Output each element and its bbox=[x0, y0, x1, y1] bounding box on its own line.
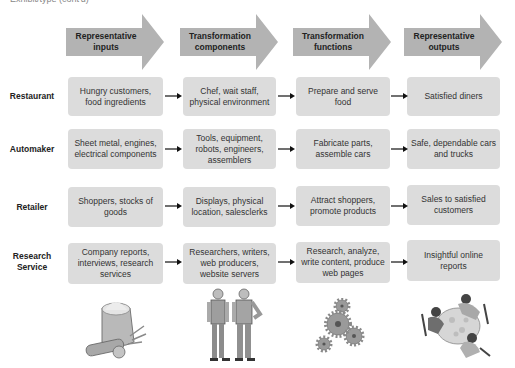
cell-automaker-functions: Fabricate parts,assemble cars bbox=[296, 129, 390, 169]
column-header-label: Transformation bbox=[189, 31, 251, 41]
flow-arrow-icon bbox=[165, 145, 183, 153]
flow-arrow-icon bbox=[165, 258, 183, 266]
column-header-outputs: Representativeoutputs bbox=[404, 14, 504, 70]
figure-caption: Exhibit/type (cont'd) bbox=[10, 0, 89, 4]
cell-research-outputs: Insightful onlinereports bbox=[407, 240, 500, 281]
cell-retailer-outputs: Sales to satisfiedcustomers bbox=[407, 185, 500, 225]
row-label-automaker: Automaker bbox=[0, 144, 64, 155]
diners-at-table-illustration bbox=[418, 290, 500, 364]
flow-arrow-icon bbox=[391, 145, 409, 153]
column-header-functions: Transformationfunctions bbox=[293, 14, 393, 70]
flow-arrow-icon bbox=[278, 145, 296, 153]
column-header-label: Representative bbox=[414, 31, 475, 41]
cell-research-components: Researchers, writers,web producers,websi… bbox=[183, 243, 276, 284]
cell-automaker-outputs: Safe, dependable carsand trucks bbox=[407, 129, 500, 169]
cell-retailer-inputs: Shoppers, stocks ofgoods bbox=[68, 187, 163, 227]
column-header-components: Transformationcomponents bbox=[180, 14, 280, 70]
cell-restaurant-components: Chef, wait staff,physical environment bbox=[183, 77, 276, 116]
flow-arrow-icon bbox=[165, 202, 183, 210]
flow-arrow-icon bbox=[278, 92, 296, 100]
flow-arrow-icon bbox=[278, 202, 296, 210]
flow-arrow-icon bbox=[391, 92, 409, 100]
column-header-inputs: Representativeinputs bbox=[66, 14, 166, 70]
cell-restaurant-functions: Prepare and servefood bbox=[296, 77, 390, 116]
column-header-label: functions bbox=[314, 42, 352, 52]
sack-of-ingredients-illustration bbox=[80, 296, 150, 368]
column-header-label: outputs bbox=[428, 42, 459, 52]
row-label-research-service: ResearchService bbox=[0, 251, 64, 273]
gears-illustration bbox=[312, 298, 372, 360]
cell-retailer-functions: Attract shoppers,promote products bbox=[296, 186, 390, 226]
column-header-label: Representative bbox=[76, 31, 137, 41]
column-header-label: components bbox=[195, 42, 246, 52]
cell-restaurant-outputs: Satisfied diners bbox=[407, 77, 500, 116]
flow-arrow-icon bbox=[391, 202, 409, 210]
column-header-label: inputs bbox=[93, 42, 119, 52]
cell-research-functions: Research, analyze,write content, produce… bbox=[296, 242, 390, 283]
row-label-restaurant: Restaurant bbox=[0, 91, 64, 102]
construction-workers-illustration bbox=[200, 286, 270, 368]
flow-arrow-icon bbox=[278, 258, 296, 266]
cell-retailer-components: Displays, physicallocation, salesclerks bbox=[183, 187, 276, 227]
row-label-retailer: Retailer bbox=[0, 202, 64, 213]
flow-arrow-icon bbox=[165, 92, 183, 100]
cell-automaker-components: Tools, equipment,robots, engineers,assem… bbox=[183, 129, 276, 169]
column-header-label: Transformation bbox=[302, 31, 364, 41]
cell-research-inputs: Company reports,interviews, researchserv… bbox=[68, 243, 163, 284]
cell-restaurant-inputs: Hungry customers,food ingredients bbox=[68, 77, 163, 116]
flow-arrow-icon bbox=[391, 258, 409, 266]
cell-automaker-inputs: Sheet metal, engines,electrical componen… bbox=[68, 129, 163, 169]
